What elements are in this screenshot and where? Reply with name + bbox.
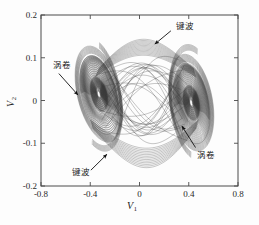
y-tick-label: 0.2 [26, 10, 37, 20]
x-axis-title: V1 [127, 200, 137, 212]
x-tick-label: 0 [137, 189, 142, 199]
attractor-trajectories [75, 39, 214, 167]
y-axis-title-sub: 2 [10, 97, 17, 100]
y-axis-title: V2 [5, 97, 17, 107]
annotation-label-scroll-left: 涡卷 [53, 60, 71, 70]
annotation-label-key-wave-bottom: 键波 [72, 167, 90, 177]
annotation-arrow-key-wave-top [155, 31, 171, 44]
y-tick-label: -0.2 [23, 181, 37, 191]
x-tick-label: -0.4 [83, 189, 98, 199]
x-tick-label: 0.4 [183, 189, 195, 199]
phase-portrait-plot: -0.8-0.400.40.8 0.20.10-0.1-0.2 V1 V2 键波… [0, 0, 259, 225]
chart-figure: -0.8-0.400.40.8 0.20.10-0.1-0.2 V1 V2 键波… [0, 0, 259, 225]
y-tick-label: 0 [33, 96, 38, 106]
x-axis-title-sub: 1 [134, 205, 137, 212]
y-tick-label: -0.1 [23, 138, 37, 148]
annotation-arrow-key-wave-bottom [91, 154, 107, 170]
svg-text:V2: V2 [5, 97, 17, 107]
y-tick-label: 0.1 [26, 53, 37, 63]
svg-text:V1: V1 [127, 200, 137, 212]
y-axis-tick-labels: 0.20.10-0.1-0.2 [23, 10, 38, 191]
annotation-label-scroll-right: 涡卷 [197, 150, 215, 160]
annotation-label-key-wave-top: 键波 [176, 21, 194, 31]
x-tick-label: 0.8 [232, 189, 244, 199]
x-axis-tick-labels: -0.8-0.400.40.8 [34, 189, 244, 199]
